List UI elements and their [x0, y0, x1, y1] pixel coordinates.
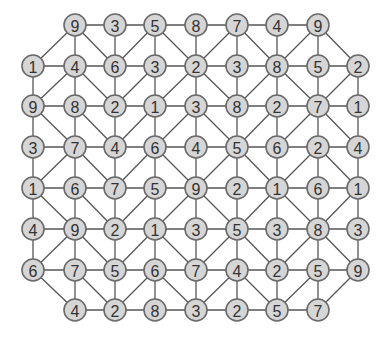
node-value: 3	[151, 59, 160, 76]
node-value: 4	[273, 18, 282, 35]
node-value: 6	[151, 140, 160, 157]
grid-node: 1	[22, 177, 44, 199]
node-value: 7	[192, 263, 201, 280]
node-value: 3	[192, 99, 201, 116]
grid-node: 4	[22, 218, 44, 240]
grid-node: 7	[64, 136, 86, 158]
node-value: 3	[192, 303, 201, 320]
grid-node: 5	[307, 259, 329, 281]
grid-node: 6	[104, 55, 126, 77]
grid-node: 9	[307, 14, 329, 36]
node-value: 9	[29, 99, 38, 116]
node-value: 4	[354, 140, 363, 157]
grid-node: 7	[307, 95, 329, 117]
node-value: 6	[29, 263, 38, 280]
grid-node: 2	[307, 136, 329, 158]
grid-node: 6	[266, 136, 288, 158]
node-value: 5	[111, 263, 120, 280]
grid-node: 2	[226, 177, 248, 199]
node-value: 7	[314, 99, 323, 116]
grid-node: 9	[22, 95, 44, 117]
grid-node: 7	[185, 259, 207, 281]
node-value: 5	[233, 140, 242, 157]
node-value: 3	[354, 222, 363, 239]
grid-node: 4	[64, 55, 86, 77]
grid-node: 5	[226, 218, 248, 240]
grid-node: 5	[307, 55, 329, 77]
node-value: 1	[29, 59, 38, 76]
grid-node: 3	[144, 55, 166, 77]
grid-node: 8	[226, 95, 248, 117]
grid-node: 3	[185, 218, 207, 240]
grid-node: 6	[22, 259, 44, 281]
grid-node: 3	[347, 218, 369, 240]
node-value: 6	[71, 181, 80, 198]
grid-node: 4	[347, 136, 369, 158]
node-value: 2	[233, 303, 242, 320]
node-value: 3	[233, 59, 242, 76]
node-value: 7	[111, 181, 120, 198]
node-value: 1	[29, 181, 38, 198]
node-value: 6	[111, 59, 120, 76]
node-value: 7	[71, 140, 80, 157]
grid-node: 7	[104, 177, 126, 199]
grid-node: 6	[307, 177, 329, 199]
grid-node: 9	[347, 259, 369, 281]
grid-node: 5	[144, 177, 166, 199]
grid-node: 6	[144, 259, 166, 281]
node-value: 9	[354, 263, 363, 280]
node-value: 2	[192, 59, 201, 76]
node-value: 4	[71, 303, 80, 320]
node-value: 4	[233, 263, 242, 280]
grid-node: 6	[144, 136, 166, 158]
grid-node: 3	[226, 55, 248, 77]
node-value: 5	[151, 181, 160, 198]
node-value: 8	[314, 222, 323, 239]
node-value: 4	[71, 59, 80, 76]
grid-node: 2	[185, 55, 207, 77]
grid-node: 4	[185, 136, 207, 158]
grid-node: 2	[226, 299, 248, 321]
node-value: 8	[151, 303, 160, 320]
node-value: 1	[354, 99, 363, 116]
grid-node: 7	[64, 259, 86, 281]
node-value: 9	[314, 18, 323, 35]
node-value: 4	[111, 140, 120, 157]
node-value: 5	[314, 59, 323, 76]
node-value: 2	[354, 59, 363, 76]
grid-node: 5	[144, 14, 166, 36]
node-value: 8	[71, 99, 80, 116]
node-value: 2	[314, 140, 323, 157]
node-value: 2	[233, 181, 242, 198]
node-value: 8	[233, 99, 242, 116]
node-value: 4	[192, 140, 201, 157]
node-value: 7	[233, 18, 242, 35]
grid-node: 5	[226, 136, 248, 158]
grid-node: 9	[64, 14, 86, 36]
node-value: 2	[111, 222, 120, 239]
node-value: 1	[354, 181, 363, 198]
node-value: 9	[192, 181, 201, 198]
grid-node: 4	[104, 136, 126, 158]
grid-node: 3	[266, 218, 288, 240]
node-value: 6	[273, 140, 282, 157]
grid-node: 2	[104, 95, 126, 117]
node-value: 2	[273, 263, 282, 280]
node-value: 6	[151, 263, 160, 280]
node-value: 5	[233, 222, 242, 239]
number-grid-diagram: 9358749146323852982138271374645624167592…	[0, 0, 385, 337]
grid-node: 8	[64, 95, 86, 117]
node-value: 8	[273, 59, 282, 76]
grid-node: 7	[226, 14, 248, 36]
grid-node: 9	[185, 177, 207, 199]
node-value: 1	[151, 222, 160, 239]
grid-node: 2	[266, 95, 288, 117]
node-value: 2	[273, 99, 282, 116]
grid-node: 1	[347, 177, 369, 199]
grid-node: 8	[307, 218, 329, 240]
grid-node: 6	[64, 177, 86, 199]
node-value: 8	[192, 18, 201, 35]
node-value: 3	[29, 140, 38, 157]
node-value: 7	[71, 263, 80, 280]
grid-node: 1	[144, 95, 166, 117]
